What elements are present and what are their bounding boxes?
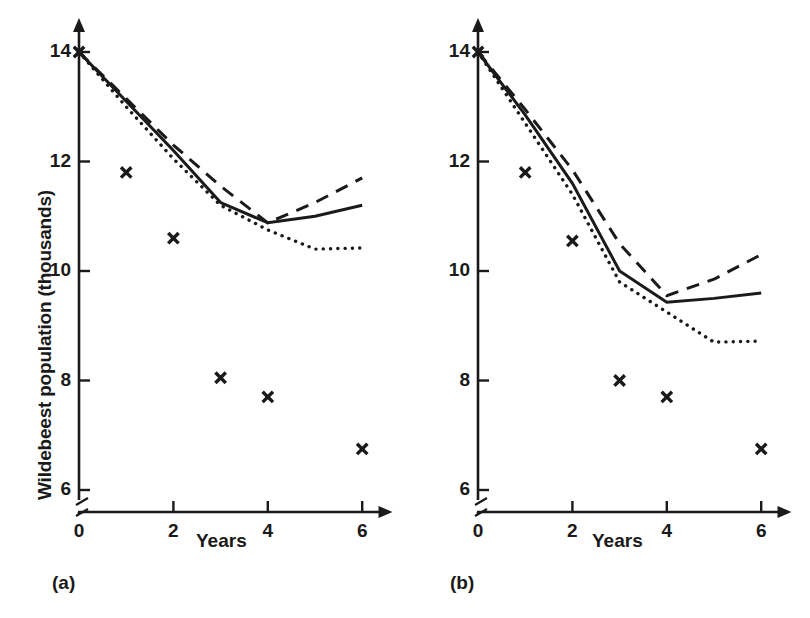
panel-b-x-tick-label: 6: [741, 520, 781, 542]
panel-a-data-marker: [168, 233, 178, 243]
panel-b-caption: (b): [450, 572, 474, 594]
panel-a-series-dashed: [79, 52, 362, 223]
panel-b-data-marker: [567, 236, 577, 246]
panel-b-data-marker: [520, 167, 530, 177]
panel-b-y-tick-label: 8: [430, 369, 470, 391]
panel-b-data-marker: [756, 444, 766, 454]
panel-b-x-axis-title: Years: [592, 530, 643, 552]
panel-a-y-tick-label: 6: [31, 478, 71, 500]
panel-a-x-tick-label: 6: [342, 520, 382, 542]
panel-a-y-tick-label: 14: [31, 40, 71, 62]
panel-b-y-tick-label: 6: [430, 478, 470, 500]
panel-a-data-marker: [263, 392, 273, 402]
panel-a-data-marker: [357, 444, 367, 454]
panel-b-series-dashed: [478, 52, 761, 296]
panel-b-x-tick-label: 2: [552, 520, 592, 542]
panel-a-x-axis-title: Years: [196, 530, 247, 552]
figure-container: Wildebeest population (thousands) (a) (b…: [0, 0, 810, 618]
panel-b-x-tick-label: 4: [647, 520, 687, 542]
panel-b-x-tick-label: 0: [458, 520, 498, 542]
panel-a-y-tick-label: 8: [31, 369, 71, 391]
panel-b-x-axis-arrow: [778, 506, 792, 518]
panel-a-data-marker: [215, 373, 225, 383]
panel-a-y-tick-label: 12: [31, 150, 71, 172]
panel-a-y-axis-arrow: [73, 18, 85, 32]
plot-canvas: [0, 0, 810, 618]
panel-a-data-marker: [121, 167, 131, 177]
panel-a-x-axis-arrow: [379, 506, 393, 518]
panel-b-data-marker: [614, 375, 624, 385]
panel-a-x-tick-label: 0: [59, 520, 99, 542]
panel-a-x-tick-label: 4: [248, 520, 288, 542]
panel-b-y-tick-label: 14: [430, 40, 470, 62]
panel-b-y-axis-arrow: [472, 18, 484, 32]
panel-b-plot: [472, 18, 792, 518]
panel-b-y-tick-label: 12: [430, 150, 470, 172]
panel-a-series-solid: [79, 52, 362, 223]
panel-b-y-tick-label: 10: [430, 259, 470, 281]
panel-a-y-tick-label: 10: [31, 259, 71, 281]
panel-a-series-dotted: [79, 52, 362, 249]
panel-b-data-marker: [662, 392, 672, 402]
panel-a-plot: [73, 18, 393, 518]
panel-a-x-tick-label: 2: [153, 520, 193, 542]
panel-a-caption: (a): [52, 572, 75, 594]
y-axis-label: Wildebeest population (thousands): [34, 190, 56, 500]
